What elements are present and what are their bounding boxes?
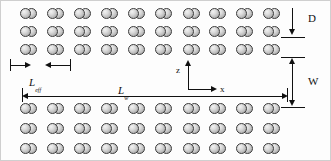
array-length-subscript: w [124,95,128,101]
dimer-lobe-left [209,26,220,37]
x-axis-shaft [188,89,212,90]
dimer-particle [128,8,146,21]
dimer-particle [236,26,254,39]
dimer-particle [155,44,173,57]
dimer-particle [209,44,227,57]
dimer-particle [236,143,254,156]
dimer-lobe-left [183,26,194,37]
dimer-particle [236,103,254,116]
dimer-particle [183,143,201,156]
dimer-lobe-left [236,123,247,134]
dimer-particle [183,44,201,57]
lw-arrow-head-right [282,93,288,99]
dimer-particle [128,123,146,136]
x-axis-label: x [220,85,225,94]
dimer-lobe-left [236,143,247,154]
dimer-particle [263,26,281,39]
dimer-lobe-left [101,103,112,114]
dimer-particle [263,103,281,116]
dimer-particle [263,123,281,136]
dimer-lobe-left [74,123,85,134]
particle-row [0,103,331,116]
dimer-lobe-left [128,8,139,19]
dimer-lobe-left [20,103,31,114]
dimer-lobe-left [263,8,274,19]
dimer-particle [101,143,119,156]
dimer-particle [209,123,227,136]
dimer-lobe-left [236,26,247,37]
dimer-particle [128,26,146,39]
leff-tick-right [70,59,71,71]
effective-length-label: Leff [29,73,41,91]
dimer-particle [263,8,281,21]
dimer-particle [47,26,65,39]
z-axis-label: z [176,66,180,75]
dimer-particle [263,143,281,156]
dimer-particle [209,143,227,156]
dimer-lobe-left [263,103,274,114]
dimer-lobe-left [74,143,85,154]
dimer-lobe-left [128,26,139,37]
dimer-lobe-left [155,44,166,55]
dimer-lobe-left [155,8,166,19]
lw-shaft [26,96,284,97]
dimer-particle [155,103,173,116]
dimer-lobe-left [183,44,194,55]
particle-row [0,123,331,136]
dimer-lobe-left [74,26,85,37]
schematic-figure: D W Leff Lw z [0,0,331,161]
dimer-particle [74,44,92,57]
dimer-particle [47,8,65,21]
x-axis-arrow-head [211,86,217,92]
dimer-lobe-left [263,123,274,134]
effective-length-subscript: eff [35,87,41,93]
dimer-particle [101,8,119,21]
dimer-particle [263,44,281,57]
dimer-lobe-left [47,143,58,154]
dimer-particle [183,103,201,116]
dimer-lobe-left [183,8,194,19]
particle-row [0,8,331,21]
dimer-particle [155,8,173,21]
dimer-lobe-left [263,143,274,154]
dimer-lobe-left [209,103,220,114]
leff-arrow-head-left [25,62,31,68]
dimer-lobe-left [183,123,194,134]
dimer-lobe-left [74,103,85,114]
dimer-lobe-left [155,26,166,37]
dimer-particle [155,143,173,156]
dimer-particle [74,26,92,39]
row-spacing-label: D [308,13,316,24]
figure-border [0,0,331,161]
dimer-particle [101,103,119,116]
dimer-lobe-left [47,8,58,19]
dimer-particle [20,26,38,39]
w-arrow-head-bottom [289,100,295,106]
dimer-particle [20,8,38,21]
w-tick-bottom [281,107,305,108]
dimer-particle [183,8,201,21]
d-arrow-head [289,29,295,35]
dimer-particle [209,26,227,39]
dimer-particle [236,44,254,57]
dimer-lobe-left [155,103,166,114]
dimer-particle [155,26,173,39]
dimer-lobe-left [101,8,112,19]
dimer-lobe-left [47,123,58,134]
dimer-lobe-left [263,44,274,55]
dimer-particle [20,103,38,116]
dimer-lobe-left [155,123,166,134]
lw-arrow-head-left [22,93,28,99]
dimer-particle [101,26,119,39]
dimer-lobe-left [74,44,85,55]
dimer-particle [47,123,65,136]
dimer-lobe-left [236,103,247,114]
dimer-lobe-left [128,44,139,55]
array-length-label: Lw [118,81,128,99]
dimer-lobe-left [101,44,112,55]
dimer-particle [20,143,38,156]
dimer-particle [47,143,65,156]
dimer-lobe-left [155,143,166,154]
dimer-lobe-left [209,143,220,154]
dimer-lobe-left [209,123,220,134]
